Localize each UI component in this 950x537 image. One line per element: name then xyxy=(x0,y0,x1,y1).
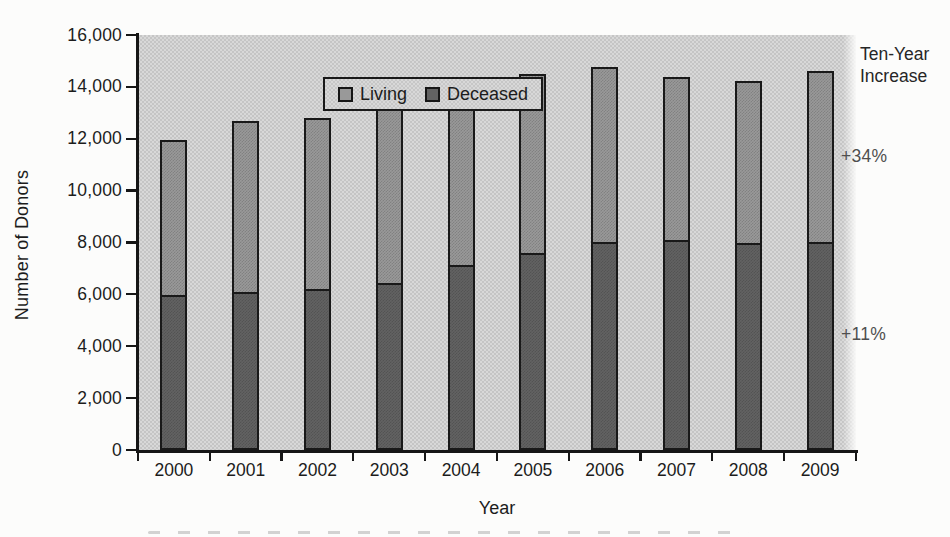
x-axis-title: Year xyxy=(138,498,856,519)
living-segment xyxy=(162,142,185,294)
stacked-bar-2001 xyxy=(232,121,259,450)
x-axis-year-label: 2000 xyxy=(139,460,209,481)
deceased-segment xyxy=(162,295,185,448)
y-axis-tick xyxy=(126,189,137,191)
living-segment xyxy=(378,107,401,282)
y-axis-tick xyxy=(126,345,137,347)
x-axis-tick xyxy=(855,452,857,461)
deceased-segment xyxy=(809,242,832,448)
stacked-bar-2005 xyxy=(519,74,546,450)
x-axis-year-label: 2002 xyxy=(283,460,353,481)
donor-bar-chart-figure: Living Deceased 02,0004,0006,0008,00010,… xyxy=(0,0,950,537)
stacked-bar-2000 xyxy=(160,140,187,450)
y-axis-tick xyxy=(126,449,137,451)
living-segment xyxy=(306,120,329,290)
legend-label-deceased: Deceased xyxy=(447,84,528,105)
x-axis-year-label: 2006 xyxy=(570,460,640,481)
x-axis-year-label: 2005 xyxy=(498,460,568,481)
living-segment xyxy=(809,73,832,242)
stacked-bar-2006 xyxy=(591,67,618,450)
deceased-segment xyxy=(665,240,688,448)
legend-item-deceased: Deceased xyxy=(425,84,528,105)
cropped-caption-remnant xyxy=(148,531,748,534)
legend-label-living: Living xyxy=(360,84,407,105)
y-axis-tick-label: 2,000 xyxy=(0,388,122,409)
deceased-segment xyxy=(737,243,760,448)
stacked-bar-2008 xyxy=(735,81,762,450)
living-swatch-icon xyxy=(338,87,353,102)
x-axis-year-label: 2008 xyxy=(713,460,783,481)
x-axis-year-label: 2001 xyxy=(211,460,281,481)
x-axis-year-label: 2003 xyxy=(354,460,424,481)
y-axis-tick xyxy=(126,293,137,295)
living-segment xyxy=(450,85,473,265)
deceased-segment xyxy=(521,253,544,448)
upper-segment-increase-label: +34% xyxy=(841,146,887,167)
living-segment xyxy=(737,83,760,242)
stacked-bar-2007 xyxy=(663,77,690,451)
living-segment xyxy=(665,79,688,241)
legend-box: Living Deceased xyxy=(323,77,543,111)
lower-segment-increase-label: +11% xyxy=(841,324,886,345)
stacked-bar-2003 xyxy=(376,105,403,450)
deceased-segment xyxy=(234,292,257,448)
y-axis-tick xyxy=(126,397,137,399)
deceased-segment xyxy=(306,289,329,448)
stacked-bar-2002 xyxy=(304,118,331,450)
y-axis-tick-label: 0 xyxy=(0,440,122,461)
deceased-segment xyxy=(450,265,473,448)
x-axis-year-label: 2004 xyxy=(426,460,496,481)
stacked-bar-2004 xyxy=(448,83,475,450)
ten-year-line2: Increase xyxy=(860,66,929,88)
x-axis-year-label: 2009 xyxy=(785,460,855,481)
legend-item-living: Living xyxy=(338,84,407,105)
y-axis-tick xyxy=(126,138,137,140)
deceased-swatch-icon xyxy=(425,87,440,102)
deceased-segment xyxy=(593,242,616,448)
y-axis-tick-label: 4,000 xyxy=(0,336,122,357)
ten-year-increase-label: Ten-Year Increase xyxy=(860,44,929,87)
ten-year-line1: Ten-Year xyxy=(860,44,929,66)
plot-area: Living Deceased xyxy=(138,35,856,450)
y-axis-tick-label: 16,000 xyxy=(0,25,122,46)
y-axis-tick-label: 12,000 xyxy=(0,128,122,149)
y-axis-title: Number of Donors xyxy=(12,170,33,320)
y-axis-tick xyxy=(126,86,137,88)
stacked-bar-2009 xyxy=(807,71,834,450)
living-segment xyxy=(234,123,257,293)
living-segment xyxy=(593,69,616,242)
y-axis-tick xyxy=(126,34,137,36)
deceased-segment xyxy=(378,283,401,448)
y-axis-tick-label: 14,000 xyxy=(0,76,122,97)
x-axis-year-label: 2007 xyxy=(642,460,712,481)
y-axis-tick xyxy=(126,241,137,243)
